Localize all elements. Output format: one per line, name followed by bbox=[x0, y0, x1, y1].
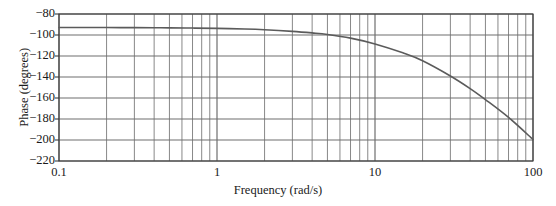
y-tick-label: −100 bbox=[29, 28, 55, 41]
y-tick-label: −120 bbox=[29, 49, 55, 62]
y-tick-label: −160 bbox=[29, 91, 55, 104]
plot-frame-border bbox=[59, 14, 533, 161]
x-tick-label: 1 bbox=[187, 166, 247, 179]
x-tick-label: 100 bbox=[503, 166, 556, 179]
x-axis-title: Frequency (rad/s) bbox=[0, 184, 556, 197]
minor-gridlines bbox=[107, 14, 526, 161]
phase-curve bbox=[59, 28, 533, 140]
y-tick-label: −180 bbox=[29, 112, 55, 125]
x-tick-label: 10 bbox=[345, 166, 405, 179]
x-tick-label: 0.1 bbox=[29, 166, 89, 179]
y-tick-label: −80 bbox=[35, 7, 55, 20]
y-tick-label: −200 bbox=[29, 133, 55, 146]
y-tick-label: −140 bbox=[29, 70, 55, 83]
y-axis-title: Phase (degrees) bbox=[18, 7, 31, 167]
major-vertical-gridlines bbox=[59, 14, 533, 161]
major-horizontal-gridlines bbox=[59, 14, 533, 161]
phase-bode-plot-figure: −80−100−120−140−160−180−200−220 0.111010… bbox=[0, 0, 556, 206]
